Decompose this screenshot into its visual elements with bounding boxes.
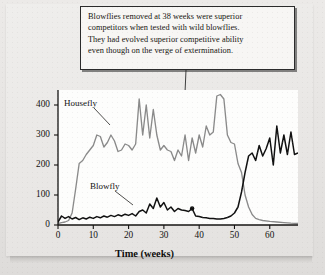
scanned-page: Blowflies removed at 38 weeks were super… xyxy=(0,0,325,275)
series-label-leaders xyxy=(0,0,325,275)
